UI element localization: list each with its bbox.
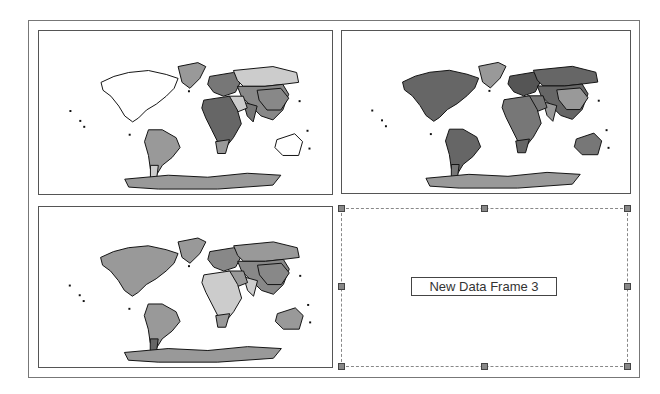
region-russia	[533, 66, 597, 86]
island	[79, 294, 81, 296]
region-south-africa	[216, 314, 230, 328]
resize-handle-top-right[interactable]	[624, 205, 631, 212]
resize-handle-bottom-right[interactable]	[624, 363, 631, 370]
island	[606, 129, 608, 131]
region-south-africa	[216, 140, 230, 154]
data-frame-3[interactable]	[38, 206, 333, 368]
island	[299, 100, 301, 102]
island	[385, 125, 387, 127]
island	[307, 130, 309, 132]
data-frame-1[interactable]	[38, 30, 333, 195]
island	[83, 300, 85, 302]
island	[83, 126, 85, 128]
region-greenland	[479, 62, 506, 88]
region-antarctica	[426, 172, 580, 188]
region-greenland	[178, 63, 206, 89]
world-map-1	[39, 31, 332, 194]
resize-handle-middle-left[interactable]	[338, 283, 345, 290]
island	[598, 100, 600, 102]
island	[129, 134, 131, 136]
region-north-america	[101, 71, 178, 122]
island	[608, 147, 610, 149]
region-south-america	[445, 129, 480, 174]
island	[309, 321, 311, 323]
island	[307, 304, 309, 306]
region-australia	[275, 308, 303, 329]
world-map-3	[39, 207, 332, 367]
island	[128, 308, 130, 310]
new-data-frame-label: New Data Frame 3	[411, 277, 557, 296]
data-frame-2[interactable]	[341, 30, 631, 194]
island	[79, 120, 81, 122]
region-russia	[234, 242, 300, 261]
resize-handle-bottom-left[interactable]	[338, 363, 345, 370]
region-north-america	[101, 246, 178, 296]
island	[308, 148, 310, 150]
island	[371, 110, 373, 112]
region-russia	[233, 67, 298, 87]
region-south-africa	[516, 139, 530, 153]
island	[69, 110, 71, 112]
region-greenland	[178, 238, 206, 263]
region-australia	[574, 133, 601, 155]
region-south-america	[144, 304, 180, 349]
resize-handle-top-left[interactable]	[338, 205, 345, 212]
region-antarctica	[125, 173, 281, 189]
region-antarctica	[124, 347, 281, 363]
region-south-america	[145, 130, 181, 175]
island	[488, 90, 490, 92]
resize-handle-bottom-center[interactable]	[481, 363, 488, 370]
island	[430, 133, 432, 135]
island	[188, 90, 190, 92]
region-north-america	[403, 70, 479, 121]
island	[69, 285, 71, 287]
world-map-2	[342, 31, 630, 193]
region-australia	[275, 134, 303, 156]
island	[381, 119, 383, 121]
resize-handle-middle-right[interactable]	[624, 283, 631, 290]
island	[188, 265, 190, 267]
resize-handle-top-center[interactable]	[481, 205, 488, 212]
island	[299, 275, 301, 277]
